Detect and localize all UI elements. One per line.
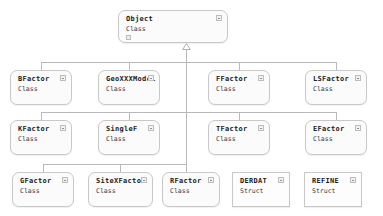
class-node-stereotype: Class — [216, 85, 236, 93]
collapse-box-icon[interactable] — [355, 75, 361, 81]
class-node-ffactor[interactable]: FFactor Class — [208, 70, 270, 105]
class-node-efactor[interactable]: EFactor Class — [305, 120, 367, 155]
collapse-box-icon[interactable] — [258, 75, 264, 81]
collapse-box-icon[interactable] — [62, 177, 68, 183]
branch-drop-sitexfactor — [120, 164, 121, 172]
class-node-gfactor[interactable]: GFactor Class — [12, 172, 74, 207]
class-node-rfactor[interactable]: RFactor Class — [162, 172, 220, 207]
struct-node-derdat[interactable]: DERDAT Struct — [232, 172, 290, 207]
branch-bar-row3 — [43, 164, 187, 165]
collapse-box-icon[interactable] — [258, 125, 264, 131]
class-node-title: BFactor — [18, 75, 50, 83]
branch-drop-kfactor — [41, 112, 42, 120]
class-node-stereotype: Class — [106, 85, 126, 93]
class-node-tfactor[interactable]: TFactor Class — [208, 120, 270, 155]
branch-bar-row1 — [41, 62, 336, 63]
member-square-icon — [126, 35, 131, 40]
class-node-stereotype: Class — [18, 85, 38, 93]
class-node-stereotype: Class — [216, 135, 236, 143]
class-node-stereotype: Class — [170, 187, 190, 195]
class-node-geoxxxmodel[interactable]: GeoXXXModel Class — [98, 70, 160, 105]
class-node-stereotype: Class — [20, 187, 40, 195]
class-node-bfactor[interactable]: BFactor Class — [10, 70, 72, 105]
class-node-title: TFactor — [216, 125, 248, 133]
collapse-box-icon[interactable] — [208, 177, 214, 183]
trunk-line — [186, 49, 187, 166]
collapse-box-icon[interactable] — [60, 75, 66, 81]
collapse-box-icon[interactable] — [148, 75, 154, 81]
class-node-title: FFactor — [216, 75, 248, 83]
struct-node-stereotype: Struct — [312, 187, 335, 195]
struct-node-title: REFINE — [312, 177, 339, 185]
struct-node-refine[interactable]: REFINE Struct — [304, 172, 362, 207]
branch-drop-rfactor — [186, 164, 187, 172]
collapse-box-icon[interactable] — [350, 177, 356, 183]
class-node-stereotype: Class — [126, 25, 146, 33]
struct-node-stereotype: Struct — [240, 187, 263, 195]
branch-drop-efactor — [336, 112, 337, 120]
class-node-stereotype: Class — [96, 187, 116, 195]
class-node-title: GFactor — [20, 177, 52, 185]
branch-bar-row2 — [41, 112, 336, 113]
struct-node-title: DERDAT — [240, 177, 267, 185]
class-node-title: Object — [126, 15, 153, 23]
branch-drop-geoxxxmodel — [129, 62, 130, 70]
branch-drop-gfactor — [43, 164, 44, 172]
branch-drop-tfactor — [239, 112, 240, 120]
branch-drop-bfactor — [41, 62, 42, 70]
collapse-box-icon[interactable] — [60, 125, 66, 131]
class-node-title: SiteXFactor — [96, 177, 146, 185]
class-node-lsfactor[interactable]: LSFactor Class — [305, 70, 367, 105]
class-node-singlef[interactable]: SingleF Class — [98, 120, 160, 155]
collapse-box-icon[interactable] — [216, 15, 222, 21]
class-node-stereotype: Class — [106, 135, 126, 143]
collapse-box-icon[interactable] — [148, 125, 154, 131]
class-node-stereotype: Class — [313, 135, 333, 143]
class-node-stereotype: Class — [18, 135, 38, 143]
uml-class-diagram: Object Class BFactor Class GeoXXXModel C… — [0, 0, 383, 216]
class-node-kfactor[interactable]: KFactor Class — [10, 120, 72, 155]
branch-drop-ffactor — [239, 62, 240, 70]
branch-drop-lsfactor — [336, 62, 337, 70]
class-node-title: SingleF — [106, 125, 138, 133]
collapse-box-icon[interactable] — [278, 177, 284, 183]
class-node-title: KFactor — [18, 125, 50, 133]
class-node-stereotype: Class — [313, 85, 333, 93]
branch-drop-singlef — [129, 112, 130, 120]
class-node-object[interactable]: Object Class — [118, 10, 228, 43]
class-node-sitexfactor[interactable]: SiteXFactor Class — [88, 172, 153, 207]
class-node-title: LSFactor — [313, 75, 349, 83]
class-node-title: EFactor — [313, 125, 345, 133]
collapse-box-icon[interactable] — [141, 177, 147, 183]
collapse-box-icon[interactable] — [355, 125, 361, 131]
class-node-title: RFactor — [170, 177, 202, 185]
